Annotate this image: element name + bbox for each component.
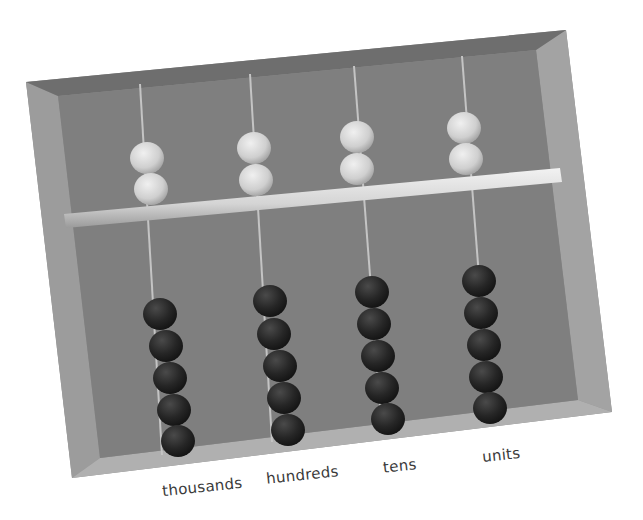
abacus-photo	[0, 0, 643, 520]
label-tens: tens	[382, 455, 417, 476]
